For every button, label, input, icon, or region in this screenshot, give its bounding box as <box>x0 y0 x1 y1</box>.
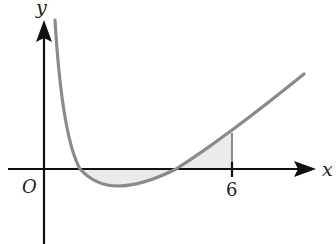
function-curve <box>55 20 304 186</box>
origin-label: O <box>22 176 37 197</box>
x-axis-label: x <box>322 158 333 180</box>
shaded-region-below-axis <box>80 169 176 186</box>
graph-diagram: y x O 6 <box>0 0 336 244</box>
y-axis-label: y <box>35 0 47 18</box>
tick-label-6: 6 <box>226 179 237 200</box>
